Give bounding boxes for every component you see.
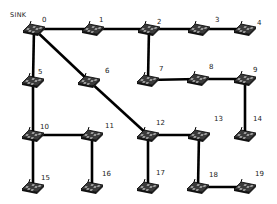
node-label-16: 16	[102, 170, 111, 178]
sensor-mote-icon	[81, 127, 103, 142]
sensor-node-14[interactable]	[234, 127, 256, 142]
node-label-12: 12	[156, 119, 165, 127]
network-topology-diagram: SINK 012345678910111213141516171819	[0, 0, 277, 204]
node-label-1: 1	[99, 16, 103, 24]
node-label-2: 2	[157, 18, 161, 26]
sensor-mote-icon	[234, 179, 256, 194]
sensor-mote-icon	[78, 73, 100, 88]
sensor-mote-icon	[81, 179, 103, 194]
node-label-6: 6	[105, 67, 109, 75]
sensor-node-17[interactable]	[137, 179, 159, 194]
node-label-13: 13	[214, 115, 223, 123]
sensor-mote-icon	[188, 21, 210, 36]
sensor-mote-icon	[188, 127, 210, 142]
node-label-19: 19	[255, 170, 264, 178]
sensor-node-3[interactable]	[188, 21, 210, 36]
node-label-0: 0	[42, 16, 46, 24]
node-label-17: 17	[156, 169, 165, 177]
sink-label: SINK	[10, 11, 26, 19]
sensor-node-4[interactable]	[234, 21, 256, 36]
node-label-7: 7	[159, 65, 163, 73]
sensor-mote-icon	[234, 127, 256, 142]
sensor-mote-icon	[187, 179, 209, 194]
node-label-18: 18	[209, 171, 218, 179]
sensor-node-6[interactable]	[78, 73, 100, 88]
sensor-node-13[interactable]	[188, 127, 210, 142]
sensor-mote-icon	[137, 127, 159, 142]
node-label-5: 5	[38, 68, 42, 76]
sensor-node-11[interactable]	[81, 127, 103, 142]
sensor-node-8[interactable]	[187, 71, 209, 86]
node-label-10: 10	[40, 123, 49, 131]
sensor-mote-icon	[137, 72, 159, 87]
node-label-4: 4	[257, 19, 261, 27]
node-label-9: 9	[253, 66, 257, 74]
sensor-node-18[interactable]	[187, 179, 209, 194]
sensor-mote-icon	[137, 179, 159, 194]
node-label-8: 8	[209, 63, 213, 71]
node-label-11: 11	[105, 122, 114, 130]
node-label-3: 3	[215, 16, 219, 24]
sensor-mote-icon	[234, 21, 256, 36]
node-label-14: 14	[253, 115, 262, 123]
node-label-15: 15	[41, 174, 50, 182]
sensor-mote-icon	[187, 71, 209, 86]
sensor-node-12[interactable]	[137, 127, 159, 142]
sensor-node-16[interactable]	[81, 179, 103, 194]
sensor-node-19[interactable]	[234, 179, 256, 194]
sensor-node-7[interactable]	[137, 72, 159, 87]
